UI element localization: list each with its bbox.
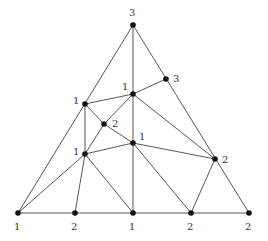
edge-C-B (133, 79, 166, 94)
node-P1 (15, 210, 21, 216)
edge-G-P2 (75, 154, 85, 213)
edge-F-H (133, 143, 215, 159)
node-label-P2: 2 (71, 221, 77, 232)
edge-G-P3 (85, 154, 133, 213)
node-B (163, 76, 169, 82)
edge-A-P5 (133, 25, 249, 213)
edge-G-P1 (18, 154, 85, 213)
node-label-F: 1 (139, 131, 145, 142)
node-label-G: 1 (73, 146, 79, 157)
edges (18, 25, 249, 213)
node-label-A: 3 (129, 7, 135, 18)
node-P3 (130, 210, 136, 216)
node-label-P5: 2 (245, 221, 251, 232)
edge-H-P4 (191, 159, 215, 213)
node-label-C: 1 (122, 81, 128, 92)
edge-C-E (104, 94, 133, 124)
node-C (130, 91, 136, 97)
edge-E-F (104, 124, 133, 143)
node-D (82, 101, 88, 107)
node-G (82, 151, 88, 157)
node-label-P4: 2 (187, 221, 193, 232)
triangulation-diagram: 3311211212122 (0, 0, 268, 241)
node-A (130, 22, 136, 28)
node-P2 (72, 210, 78, 216)
node-P5 (246, 210, 252, 216)
node-label-E: 2 (112, 118, 118, 129)
edge-D-E (85, 104, 104, 124)
node-F (130, 140, 136, 146)
node-label-P1: 1 (14, 221, 20, 232)
edge-C-H (133, 94, 215, 159)
edge-G-F (85, 143, 133, 154)
node-label-P3: 1 (129, 221, 135, 232)
node-H (212, 156, 218, 162)
edge-F-P4 (133, 143, 191, 213)
node-E (101, 121, 107, 127)
node-P4 (188, 210, 194, 216)
edge-D-C (85, 94, 133, 104)
node-label-H: 2 (222, 154, 228, 165)
node-label-B: 3 (173, 73, 179, 84)
node-label-D: 1 (73, 95, 79, 106)
edge-E-G (85, 124, 104, 154)
nodes (15, 22, 252, 216)
